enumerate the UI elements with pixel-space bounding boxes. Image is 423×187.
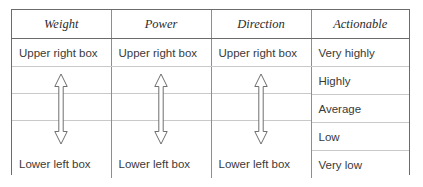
- cell-actionable-low: Low: [311, 123, 409, 151]
- column-header-actionable: Actionable: [311, 10, 409, 39]
- table-row: Highly: [12, 67, 409, 95]
- table-row: Lower left box Lower left box Lower left…: [12, 151, 409, 179]
- cell-power-lower: Lower left box: [111, 151, 211, 179]
- cell-actionable-average: Average: [311, 95, 409, 123]
- table-header: Weight Power Direction Actionable: [12, 10, 409, 39]
- table-row: Upper right box Upper right box Upper ri…: [12, 39, 409, 67]
- header-row: Weight Power Direction Actionable: [12, 10, 409, 39]
- cell-direction-arrow: [211, 67, 311, 151]
- cell-direction-lower: Lower left box: [211, 151, 311, 179]
- cell-weight-arrow: [12, 67, 111, 151]
- cell-actionable-very-highly: Very highly: [311, 39, 409, 67]
- column-header-power: Power: [111, 10, 211, 39]
- double-headed-arrow-direction: [212, 67, 311, 151]
- cell-actionable-very-low: Very low: [311, 151, 409, 179]
- comparison-matrix-table: Weight Power Direction Actionable Upper …: [11, 9, 410, 175]
- cell-direction-upper: Upper right box: [211, 39, 311, 67]
- double-headed-arrow-weight: [12, 67, 111, 151]
- column-header-weight: Weight: [12, 10, 111, 39]
- table-body: Upper right box Upper right box Upper ri…: [12, 39, 409, 179]
- cell-weight-lower: Lower left box: [12, 151, 111, 179]
- matrix-table: Weight Power Direction Actionable Upper …: [12, 10, 409, 178]
- column-header-direction: Direction: [211, 10, 311, 39]
- double-headed-arrow-power: [112, 67, 211, 151]
- cell-power-upper: Upper right box: [111, 39, 211, 67]
- cell-weight-upper: Upper right box: [12, 39, 111, 67]
- cell-power-arrow: [111, 67, 211, 151]
- cell-actionable-highly: Highly: [311, 67, 409, 95]
- screenshot-canvas: Weight Power Direction Actionable Upper …: [0, 0, 423, 187]
